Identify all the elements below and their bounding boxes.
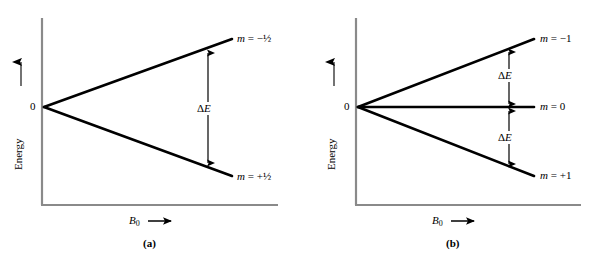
b-subscript: 0	[439, 219, 443, 228]
m-value: +½	[257, 170, 271, 182]
m-symbol: m	[237, 32, 245, 44]
level-label-m-plus-one: m = +1	[540, 170, 571, 181]
m-value: −½	[257, 32, 271, 44]
m-value: −1	[560, 32, 572, 44]
equals-sign: =	[551, 100, 557, 112]
panel-a: 0 Energy m = −½ m = +½ ΔE B0 (a)	[0, 0, 297, 257]
energy-symbol: E	[505, 131, 512, 143]
equals-sign: =	[248, 32, 254, 44]
delta-e-label-lower: ΔE	[496, 131, 514, 144]
x-axis-label: B0	[432, 215, 443, 228]
m-symbol: m	[540, 169, 548, 181]
m-value: +1	[560, 169, 572, 181]
level-line-lower	[44, 107, 232, 176]
m-value: 0	[560, 100, 566, 112]
energy-symbol: E	[204, 102, 211, 114]
x-axis-label: B0	[129, 215, 140, 228]
b-symbol: B	[432, 214, 439, 226]
level-label-m-minus-one: m = −1	[540, 33, 571, 44]
m-symbol: m	[540, 32, 548, 44]
delta-e-label: ΔE	[195, 102, 213, 115]
equals-sign: =	[248, 170, 254, 182]
level-line-upper	[44, 39, 232, 107]
level-label-m-minus-half: m = −½	[237, 33, 271, 44]
equals-sign: =	[551, 32, 557, 44]
b-subscript: 0	[136, 219, 140, 228]
panel-caption: (b)	[446, 238, 459, 249]
origin-label: 0	[344, 101, 350, 112]
equals-sign: =	[551, 169, 557, 181]
energy-symbol: E	[505, 69, 512, 81]
level-label-m-plus-half: m = +½	[237, 171, 271, 182]
panel-b: 0 Energy m = −1 m = 0 m = +1 ΔE ΔE B0 (b…	[296, 0, 593, 257]
panel-caption: (a)	[143, 238, 156, 249]
y-axis-label: Energy	[12, 138, 24, 170]
m-symbol: m	[540, 100, 548, 112]
m-symbol: m	[237, 170, 245, 182]
delta-e-label-upper: ΔE	[496, 69, 514, 82]
level-label-m-zero: m = 0	[540, 101, 565, 112]
b-symbol: B	[129, 214, 136, 226]
y-axis-label: Energy	[325, 138, 337, 170]
origin-label: 0	[30, 101, 36, 112]
